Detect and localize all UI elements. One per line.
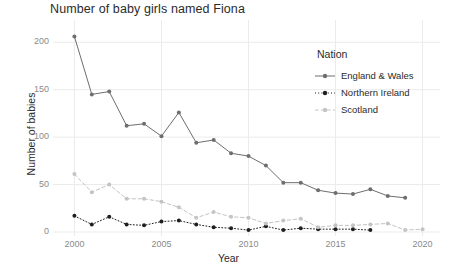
x-tick-label: 2005 [141,239,181,249]
plot-area [0,0,457,273]
x-tick-label: 2000 [54,239,94,249]
legend-item-label: Scotland [337,104,378,115]
data-point [159,220,163,224]
data-point [334,227,338,231]
legend-item-label: Northern Ireland [337,87,410,98]
data-point [90,222,94,226]
data-point [125,222,129,226]
legend-item-label: England & Wales [337,70,414,81]
data-point [125,124,129,128]
data-point [281,228,285,232]
data-point [351,223,355,227]
legend-item-3[interactable]: Scotland [313,101,453,118]
data-point [159,134,163,138]
data-point [334,223,338,227]
data-point [194,222,198,226]
data-point [247,216,251,220]
legend-key-icon [313,103,337,117]
data-point [159,200,163,204]
data-point [107,183,111,187]
legend-key-icon [313,86,337,100]
data-point [142,223,146,227]
y-tick-label: 200 [21,36,49,46]
x-tick-label: 2015 [316,239,356,249]
data-point [194,141,198,145]
data-point [90,92,94,96]
data-point [72,35,76,39]
series-2 [72,214,372,232]
data-point [316,188,320,192]
chart-container: Number of baby girls named Fiona Number … [0,0,457,273]
data-point [334,191,338,195]
data-point [72,172,76,176]
data-point [229,226,233,230]
data-point [177,219,181,223]
data-point [229,151,233,155]
data-point [90,190,94,194]
data-point [351,192,355,196]
data-point [107,215,111,219]
y-tick-label: 0 [21,226,49,236]
data-point [107,90,111,94]
x-tick-label: 2010 [229,239,269,249]
y-tick-label: 50 [21,179,49,189]
data-point [177,205,181,209]
data-point [316,225,320,229]
y-tick-label: 150 [21,84,49,94]
data-point [368,222,372,226]
data-point [177,110,181,114]
data-point [194,216,198,220]
data-point [299,181,303,185]
data-point [212,210,216,214]
data-point [142,197,146,201]
legend-item-2[interactable]: Northern Ireland [313,84,453,101]
data-point [281,219,285,223]
series-line [74,216,370,230]
legend-items: England & WalesNorthern IrelandScotland [313,67,453,118]
x-tick-label: 2020 [403,239,443,249]
data-point [351,227,355,231]
data-point [264,164,268,168]
legend-key-icon [313,69,337,83]
data-point [386,194,390,198]
data-point [403,196,407,200]
y-tick-label: 100 [21,131,49,141]
data-point [299,226,303,230]
data-point [142,122,146,126]
data-point [212,225,216,229]
data-point [212,138,216,142]
data-point [421,227,425,231]
data-point [72,214,76,218]
data-point [368,228,372,232]
data-point [247,228,251,232]
legend: Nation England & WalesNorthern IrelandSc… [313,48,453,118]
data-point [403,228,407,232]
legend-title: Nation [313,48,453,60]
data-point [386,221,390,225]
data-point [247,154,251,158]
data-point [299,217,303,221]
legend-item-1[interactable]: England & Wales [313,67,453,84]
data-point [125,197,129,201]
data-point [368,187,372,191]
data-point [264,221,268,225]
data-point [229,215,233,219]
data-point [281,181,285,185]
